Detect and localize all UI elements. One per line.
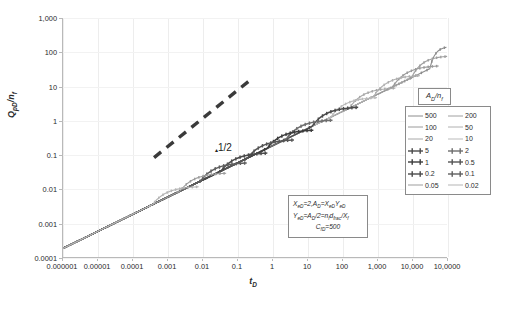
legend-item[interactable]: 0.02 bbox=[448, 180, 488, 192]
series-marker bbox=[440, 48, 441, 51]
legend-item[interactable]: 2 bbox=[448, 145, 488, 157]
legend-item[interactable]: 50 bbox=[448, 122, 488, 134]
series-marker bbox=[384, 88, 385, 91]
series-marker bbox=[330, 119, 331, 122]
legend-label: 0.02 bbox=[465, 182, 479, 189]
x-axis-tick-label: 10,000 bbox=[401, 262, 424, 271]
series-marker bbox=[388, 87, 389, 90]
series-marker bbox=[283, 139, 284, 142]
series-marker bbox=[423, 61, 424, 64]
y-axis-tick-label: 100 bbox=[0, 48, 57, 57]
series-line bbox=[63, 47, 447, 248]
series-marker bbox=[309, 121, 310, 124]
legend-item[interactable]: 0.5 bbox=[448, 156, 488, 168]
series-marker bbox=[219, 172, 220, 175]
series-marker bbox=[402, 74, 403, 77]
series-marker bbox=[404, 76, 405, 79]
y-axis-title-mid: /n bbox=[6, 94, 16, 102]
legend-item[interactable]: 200 bbox=[448, 110, 488, 122]
series-marker bbox=[260, 152, 261, 155]
series-marker bbox=[285, 133, 286, 136]
legend-swatch-icon bbox=[408, 112, 423, 120]
legend-item[interactable]: 0.2 bbox=[408, 168, 448, 180]
series-marker bbox=[149, 205, 150, 208]
legend-item[interactable]: 500 bbox=[408, 110, 448, 122]
series-marker bbox=[244, 154, 245, 157]
x-axis-tick-label: 0.001 bbox=[158, 262, 177, 271]
series-marker bbox=[353, 99, 354, 102]
series-marker bbox=[162, 193, 163, 196]
series-marker bbox=[419, 67, 420, 70]
slope-reference-line bbox=[154, 79, 252, 158]
series-marker bbox=[392, 79, 393, 82]
series-marker bbox=[265, 152, 266, 155]
legend-item[interactable]: 5 bbox=[408, 145, 448, 157]
x-axis-tick-label: 0.01 bbox=[195, 262, 209, 271]
series-marker bbox=[302, 129, 303, 132]
series-marker bbox=[396, 84, 397, 87]
series-marker bbox=[298, 130, 299, 133]
legend-swatch-icon bbox=[448, 112, 463, 120]
eq1-c: =X bbox=[321, 200, 329, 207]
legend-label: 1 bbox=[425, 159, 429, 166]
series-marker bbox=[419, 64, 420, 67]
series-marker bbox=[417, 74, 418, 77]
x-axis-tick-label: 1,000 bbox=[368, 262, 387, 271]
series-marker bbox=[349, 101, 350, 104]
series-marker bbox=[300, 125, 301, 128]
series-marker bbox=[339, 108, 340, 111]
x-axis-tick-label: 10 bbox=[303, 262, 311, 271]
x-axis-tick-label: 0.00001 bbox=[84, 262, 111, 271]
legend-label: 50 bbox=[465, 124, 473, 131]
series-marker bbox=[411, 70, 412, 73]
series-marker bbox=[383, 84, 384, 87]
legend-item[interactable]: 10 bbox=[448, 133, 488, 145]
series-marker bbox=[432, 57, 433, 60]
legend-item[interactable]: 100 bbox=[408, 122, 448, 134]
legend-row: 10.5 bbox=[408, 156, 488, 168]
legend-item[interactable]: 20 bbox=[408, 133, 448, 145]
series-marker bbox=[177, 191, 178, 194]
series-marker bbox=[252, 153, 253, 156]
gridline-horizontal bbox=[63, 258, 447, 259]
series-marker bbox=[367, 91, 368, 94]
legend-swatch-icon bbox=[408, 123, 423, 131]
x-axis-title: tD bbox=[249, 276, 257, 288]
legend-swatch-icon bbox=[408, 135, 423, 143]
legend-item[interactable]: 0.05 bbox=[408, 180, 448, 192]
series-marker bbox=[326, 119, 327, 122]
y-axis-tick-label: 1,000 bbox=[0, 14, 57, 23]
legend-swatch-icon bbox=[448, 170, 463, 178]
slope-annotation-label: ▴1/2 bbox=[215, 142, 232, 153]
x-axis-title-sub-d: D bbox=[252, 281, 257, 288]
legend-swatch-icon bbox=[448, 181, 463, 189]
series-marker bbox=[264, 148, 265, 151]
series-marker bbox=[332, 113, 333, 116]
legend-label: 5 bbox=[425, 147, 429, 154]
series-marker bbox=[396, 78, 397, 81]
legend-item[interactable]: 0.1 bbox=[448, 168, 488, 180]
series-marker bbox=[370, 97, 371, 100]
series-marker bbox=[239, 155, 240, 158]
legend-row: 500200 bbox=[408, 110, 488, 122]
legend-swatch-icon bbox=[408, 170, 423, 178]
legend-swatch-icon bbox=[408, 158, 423, 166]
series-marker bbox=[219, 165, 220, 168]
series-marker bbox=[158, 197, 159, 200]
series-marker bbox=[258, 146, 259, 149]
equation-line-1: XeD=2,AD=XeDYeD bbox=[293, 199, 363, 211]
series-marker bbox=[227, 163, 228, 166]
series-marker bbox=[154, 201, 155, 204]
series-marker bbox=[432, 65, 433, 68]
series-marker bbox=[366, 97, 367, 100]
series-marker bbox=[347, 106, 348, 109]
series-marker bbox=[202, 175, 203, 178]
series-marker bbox=[423, 66, 424, 69]
series-marker bbox=[407, 71, 408, 74]
legend-row: 2010 bbox=[408, 133, 488, 145]
legend-label: 500 bbox=[425, 112, 437, 119]
eq2-b: =A bbox=[303, 212, 311, 219]
series-marker bbox=[294, 130, 295, 133]
series-line bbox=[63, 163, 247, 248]
legend-item[interactable]: 1 bbox=[408, 156, 448, 168]
